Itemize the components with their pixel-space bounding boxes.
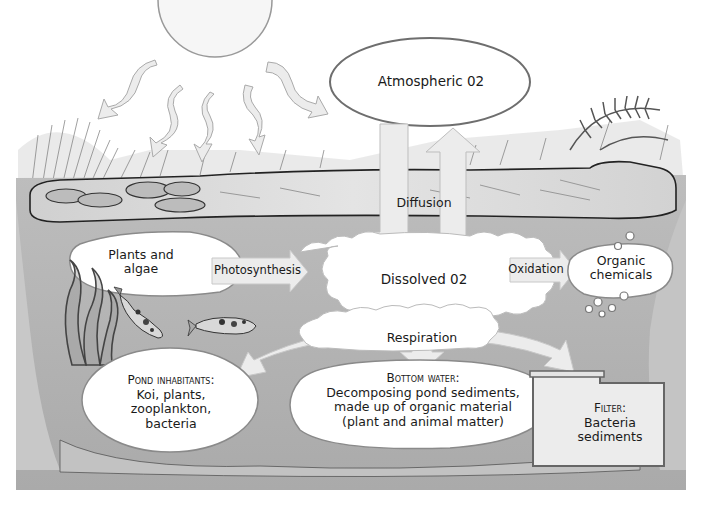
respiration-label: Respiration [364, 331, 480, 345]
organic-line1: Organic [578, 254, 664, 268]
pond-inhabitants-line2: zooplankton, [100, 402, 242, 416]
organic-line2: chemicals [578, 268, 664, 282]
plants-algae-line1: Plants and [86, 248, 196, 262]
bottom-water-label: Bottom water: Decomposing pond sediments… [300, 372, 546, 429]
sun-icon [158, 0, 272, 57]
diffusion-label: Diffusion [384, 196, 464, 210]
plants-algae-label: Plants and algae [86, 248, 196, 277]
organic-chemicals-label: Organic chemicals [578, 254, 664, 283]
pond-inhabitants-line3: bacteria [100, 417, 242, 431]
pond-oxygen-diagram: Atmospheric 02 Diffusion Plants and alga… [0, 0, 701, 508]
photosynthesis-label: Photosynthesis [214, 264, 294, 277]
oxidation-label: Oxidation [508, 263, 564, 276]
filter-heading: Filter: [560, 402, 660, 416]
filter-line2: sediments [560, 430, 660, 444]
bottom-water-line1: Decomposing pond sediments, [300, 386, 546, 400]
filter-label: Filter: Bacteria sediments [560, 402, 660, 445]
sun-ray-arrow-icon [98, 60, 328, 162]
filter-line1: Bacteria [560, 416, 660, 430]
pond-inhabitants-line1: Koi, plants, [100, 388, 242, 402]
bottom-water-line2: made up of organic material [300, 400, 546, 414]
dissolved-o2-label: Dissolved 02 [370, 272, 478, 288]
pond-inhabitants-heading: Pond inhabitants: [100, 374, 242, 388]
plants-algae-line2: algae [86, 262, 196, 276]
pond-inhabitants-label: Pond inhabitants: Koi, plants, zooplankt… [100, 374, 242, 431]
bottom-water-heading: Bottom water: [300, 372, 546, 386]
atmospheric-o2-label: Atmospheric 02 [372, 74, 490, 90]
bottom-water-line3: (plant and animal matter) [300, 415, 546, 429]
